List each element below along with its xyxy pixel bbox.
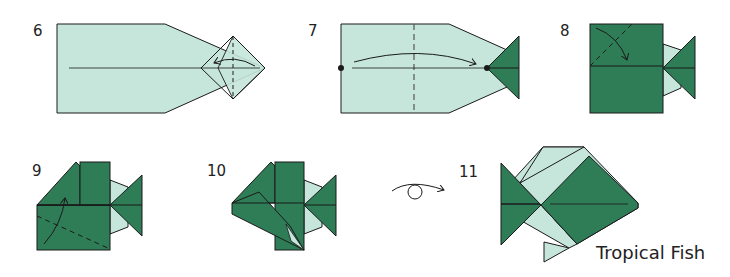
step-6-figure xyxy=(57,24,265,113)
step-8-figure xyxy=(590,24,695,113)
step-7-figure xyxy=(338,24,519,113)
step-10-figure xyxy=(232,162,336,250)
reference-dot-icon xyxy=(484,65,490,71)
step-9-figure xyxy=(37,162,142,250)
origami-diagram xyxy=(0,0,730,277)
turn-over-icon xyxy=(392,184,444,199)
reference-dot-icon xyxy=(338,65,344,71)
step-11-figure xyxy=(501,147,638,262)
